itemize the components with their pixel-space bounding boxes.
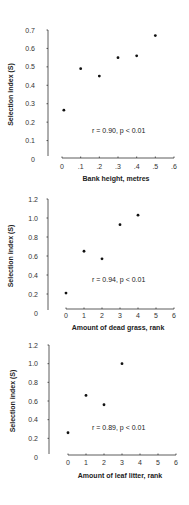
y-tick-label: 0.4 xyxy=(28,272,38,279)
x-tick-label: 0 xyxy=(60,163,64,170)
x-tick-label: .2 xyxy=(96,163,102,170)
data-point xyxy=(67,431,70,434)
y-tick-label: 1.2 xyxy=(28,342,38,349)
x-tick-label: 1 xyxy=(82,312,86,319)
y-tick-label: 0.3 xyxy=(25,100,35,107)
y-tick-label: 0.8 xyxy=(28,379,38,386)
x-tick-label: .6 xyxy=(171,163,177,170)
data-point xyxy=(119,223,122,226)
y-tick-label: 1.0 xyxy=(28,215,38,222)
correlation-annotation: r = 0.94, p < 0.01 xyxy=(92,276,145,284)
y-axis-title: Selection index (S) xyxy=(7,225,15,288)
y-tick-label: 0.7 xyxy=(25,27,35,34)
x-tick-label: 0 xyxy=(66,459,70,466)
data-point xyxy=(117,56,120,59)
x-tick-label: 3 xyxy=(118,312,122,319)
y-tick-label: 0.6 xyxy=(25,45,35,52)
x-tick-label: .4 xyxy=(134,163,140,170)
y-tick-label: 0 xyxy=(34,454,38,461)
y-tick-label: 0.4 xyxy=(28,416,38,423)
x-tick-label: 6 xyxy=(174,459,178,466)
y-tick-label: 0.8 xyxy=(28,234,38,241)
x-tick-label: 0 xyxy=(64,312,68,319)
data-point xyxy=(79,67,82,70)
x-tick-label: 4 xyxy=(138,459,142,466)
chart-panel-3: 00.20.40.60.81.01.20123456Amount of leaf… xyxy=(9,342,178,481)
data-point xyxy=(121,362,124,365)
x-tick-label: .3 xyxy=(115,163,121,170)
x-tick-label: 5 xyxy=(154,312,158,319)
chart-panel-1: 00.10.20.30.40.50.60.70.1.2.3.4.5.6Bank … xyxy=(7,27,177,184)
x-tick-label: 2 xyxy=(102,459,106,466)
y-tick-label: 0 xyxy=(31,156,35,163)
y-tick-label: 0.2 xyxy=(25,119,35,126)
data-point xyxy=(62,109,65,112)
y-tick-label: 0.5 xyxy=(25,63,35,70)
y-tick-label: 0.4 xyxy=(25,82,35,89)
x-tick-label: 1 xyxy=(84,459,88,466)
y-tick-label: 1.0 xyxy=(28,360,38,367)
data-point xyxy=(83,250,86,253)
data-point xyxy=(103,403,106,406)
x-tick-label: .5 xyxy=(152,163,158,170)
x-tick-label: 4 xyxy=(136,312,140,319)
data-point xyxy=(98,75,101,78)
data-point xyxy=(137,214,140,217)
x-axis-title: Bank height, metres xyxy=(83,175,150,183)
data-point xyxy=(101,257,104,260)
data-point xyxy=(154,34,157,37)
x-tick-label: 6 xyxy=(172,312,176,319)
y-tick-label: 0.2 xyxy=(28,291,38,298)
correlation-annotation: r = 0.89, p < 0.01 xyxy=(92,424,145,432)
y-axis-title: Selection index (S) xyxy=(7,63,15,126)
y-tick-label: 0 xyxy=(34,310,38,317)
y-tick-label: 0.1 xyxy=(25,137,35,144)
x-tick-label: 5 xyxy=(156,459,160,466)
x-tick-label: 3 xyxy=(120,459,124,466)
y-tick-label: 0.6 xyxy=(28,398,38,405)
figure: 00.10.20.30.40.50.60.70.1.2.3.4.5.6Bank … xyxy=(0,0,189,505)
correlation-annotation: r = 0.90, p < 0.01 xyxy=(92,127,145,135)
x-tick-label: 2 xyxy=(100,312,104,319)
y-tick-label: 0.2 xyxy=(28,435,38,442)
y-axis-title: Selection index (S) xyxy=(9,370,17,433)
data-point xyxy=(135,54,138,57)
x-axis-title: Amount of leaf litter, rank xyxy=(78,472,163,480)
data-point xyxy=(85,394,88,397)
y-tick-label: 1.2 xyxy=(28,196,38,203)
x-tick-label: .1 xyxy=(78,163,84,170)
data-point xyxy=(65,292,68,295)
y-tick-label: 0.6 xyxy=(28,253,38,260)
x-axis-title: Amount of dead grass, rank xyxy=(72,324,165,332)
chart-panel-2: 00.20.40.60.81.01.20123456Amount of dead… xyxy=(7,196,176,333)
